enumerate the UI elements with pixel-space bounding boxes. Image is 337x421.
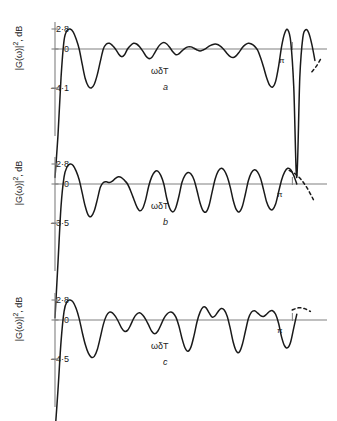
plot-area-b: [0, 139, 337, 279]
panel-a: |G(ω)|2, dB 2·8 0 –4·1 ωδT a π: [0, 4, 337, 139]
panel-b: |G(ω)|2, dB 2·8 0 –3·5 ωδT b π: [0, 139, 337, 274]
panel-c: |G(ω)|2, dB 2·8 0 –4·5 ωδT c π: [0, 275, 337, 410]
figure-root: |G(ω)|2, dB 2·8 0 –4·1 ωδT a π |G(ω)|2, …: [0, 0, 337, 421]
plot-area-c: [0, 275, 337, 415]
plot-area-a: [0, 4, 337, 144]
